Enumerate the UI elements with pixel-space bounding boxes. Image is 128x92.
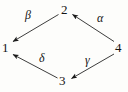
edge-beta-arrow — [13, 15, 59, 42]
edge-label-gamma: γ — [85, 54, 90, 66]
edge-label-beta: β — [25, 9, 31, 21]
edge-alpha-arrow — [73, 15, 115, 42]
edge-label-alpha: α — [97, 12, 103, 24]
node-4-label: 4 — [115, 41, 122, 54]
edge-label-delta: δ — [39, 52, 45, 64]
node-2-label: 2 — [61, 3, 68, 16]
node-3-label: 3 — [59, 74, 66, 87]
node-1-label: 1 — [2, 41, 9, 54]
edge-delta-arrow — [13, 55, 58, 79]
edge-gamma-arrow — [72, 54, 115, 79]
commutative-diagram: 1 2 3 4 α β γ δ — [0, 0, 128, 92]
